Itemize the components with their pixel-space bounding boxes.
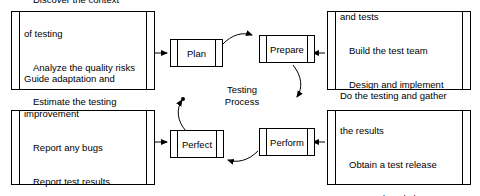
stage-label-perfect: Perfect	[171, 139, 223, 150]
detail-item: Report any bugs	[24, 142, 142, 153]
detail-lead-wrap: and tests	[340, 11, 458, 22]
detail-item: Discover the context	[24, 0, 142, 5]
stage-box-perfect[interactable]: Perfect	[170, 130, 224, 158]
detail-box-perfect: Guide adaptation and improvement Report …	[11, 110, 155, 185]
stage-label-prepare: Prepare	[260, 44, 314, 55]
testing-process-diagram: Understand the testing effort Discover t…	[0, 0, 480, 196]
detail-lead: Guide adaptation and	[24, 73, 142, 84]
connector-prepare-to-perform	[293, 65, 301, 97]
stage-box-perform[interactable]: Perform	[259, 128, 315, 156]
connector-perform-to-perfect	[228, 151, 258, 161]
cycle-junction-dot	[181, 97, 185, 101]
detail-text-perfect: Guide adaptation and improvement Report …	[24, 51, 142, 196]
detail-item: Run and track the tests	[340, 193, 458, 196]
detail-item: Obtain a test release	[340, 159, 458, 170]
connector-perfect-to-plan	[178, 100, 186, 131]
detail-lead-wrap: improvement	[24, 108, 142, 119]
center-caption-line2: Process	[200, 96, 284, 108]
detail-box-perform: Do the testing and gather the results Ob…	[327, 110, 471, 185]
connector-plan-to-prepare	[222, 34, 252, 45]
detail-item: Build the test team	[340, 45, 458, 56]
detail-text-perform: Do the testing and gather the results Ob…	[340, 68, 458, 196]
detail-item: of testing	[24, 28, 142, 39]
center-caption-line1: Testing	[200, 84, 284, 96]
detail-lead-wrap: the results	[340, 125, 458, 136]
stage-label-perform: Perform	[260, 137, 314, 148]
stage-label-plan: Plan	[171, 48, 222, 59]
stage-box-prepare[interactable]: Prepare	[259, 35, 315, 63]
center-caption: Testing Process	[200, 84, 284, 107]
stage-box-plan[interactable]: Plan	[170, 39, 223, 67]
detail-item: Report test results	[24, 176, 142, 187]
detail-lead: Do the testing and gather	[340, 90, 458, 101]
